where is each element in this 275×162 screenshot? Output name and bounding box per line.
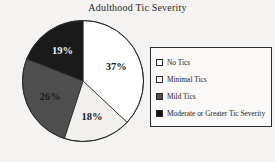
legend-swatch-minimal-tics: [156, 76, 163, 83]
legend-label-mild-tics: Mild Tics: [167, 93, 196, 100]
legend-label-moderate-or-greater: Moderate or Greater Tic Severity: [167, 110, 265, 117]
pie-slice-value-label: 37%: [106, 61, 127, 72]
chart-legend: No Tics Minimal Tics Mild Tics Moderate …: [150, 47, 272, 127]
legend-label-minimal-tics: Minimal Tics: [167, 76, 207, 83]
pie-chart-plot-area: 37%18%26%19%: [21, 19, 145, 143]
legend-swatch-moderate-or-greater: [156, 110, 163, 117]
pie-slice-value-label: 26%: [40, 91, 61, 102]
pie-chart-figure: Adulthood Tic Severity 37%18%26%19% No T…: [0, 0, 275, 162]
pie-svg: 37%18%26%19%: [21, 19, 145, 143]
chart-title: Adulthood Tic Severity: [0, 2, 275, 13]
legend-item-no-tics[interactable]: No Tics: [156, 54, 267, 71]
legend-swatch-mild-tics: [156, 93, 163, 100]
legend-item-minimal-tics[interactable]: Minimal Tics: [156, 71, 267, 88]
pie-slice-value-label: 18%: [82, 111, 103, 122]
legend-item-mild-tics[interactable]: Mild Tics: [156, 88, 267, 105]
legend-swatch-no-tics: [156, 59, 163, 66]
pie-slices: [23, 21, 144, 142]
legend-label-no-tics: No Tics: [167, 59, 190, 66]
legend-item-moderate-or-greater[interactable]: Moderate or Greater Tic Severity: [156, 105, 267, 122]
pie-slice-value-label: 19%: [52, 45, 73, 56]
